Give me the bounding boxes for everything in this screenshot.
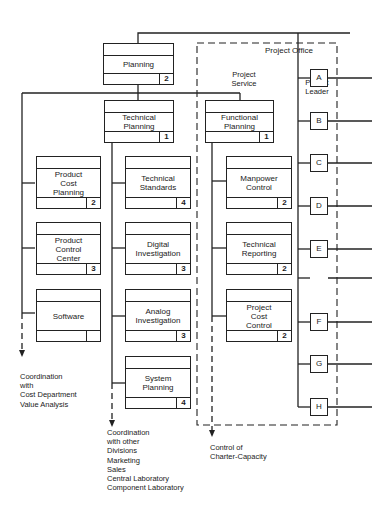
level-number: 1 (159, 132, 173, 142)
level-number: 3 (86, 264, 100, 274)
box-label: Analog Investigation (128, 301, 188, 331)
box-digital-investigation: Digital Investigation 3 (125, 222, 191, 275)
box-label: Project Cost Control (229, 301, 289, 331)
box-technical-standards: Technical Standards 4 (125, 156, 191, 209)
leader-box-d: D (310, 197, 328, 215)
box-label: System Planning (128, 368, 188, 398)
note-other-divisions: Coordination with other Divisions Market… (107, 428, 184, 492)
box-label: Technical Planning (107, 112, 171, 132)
box-label: Product Control Center (39, 234, 98, 264)
level-number: 2 (277, 198, 291, 208)
box-label: Technical Standards (128, 168, 188, 198)
box-functional-planning: Functional Planning 1 (205, 100, 274, 143)
box-project-cost-control: Project Cost Control 2 (226, 289, 292, 342)
level-number: 4 (176, 198, 190, 208)
project-service-label: Project Service (224, 70, 264, 88)
level-number: 2 (159, 74, 173, 84)
box-label: Software (39, 301, 98, 331)
box-label: Technical Reporting (229, 234, 289, 264)
leader-box-g: G (310, 355, 328, 373)
level-number: 2 (277, 331, 291, 341)
box-manpower-control: Manpower Control 2 (226, 156, 292, 209)
box-product-control-center: Product Control Center 3 (36, 222, 101, 275)
leader-box-h: H (310, 398, 328, 416)
box-product-cost-planning: Product Cost Planning 2 (36, 156, 101, 209)
level-number: 2 (86, 198, 100, 208)
level-number (86, 331, 100, 341)
box-label: Functional Planning (208, 112, 271, 132)
note-charter-capacity: Control of Charter-Capacity (210, 443, 267, 461)
leader-box-c: C (310, 154, 328, 172)
box-software: Software (36, 289, 101, 342)
level-number: 2 (277, 264, 291, 274)
level-number: 4 (176, 398, 190, 408)
note-cost-department: Coordination with Cost Department Value … (20, 372, 77, 409)
box-system-planning: System Planning 4 (125, 356, 191, 409)
leader-box-e: E (310, 240, 328, 258)
leader-box-a: A (310, 69, 328, 87)
leader-box-b: B (310, 112, 328, 130)
level-number: 1 (259, 132, 273, 142)
leader-box-f: F (310, 313, 328, 331)
box-analog-investigation: Analog Investigation 3 (125, 289, 191, 342)
box-label: Planning (106, 55, 171, 74)
box-technical-planning: Technical Planning 1 (104, 100, 174, 143)
box-label: Digital Investigation (128, 234, 188, 264)
level-number: 3 (176, 331, 190, 341)
project-office-title: Project Office (265, 46, 313, 55)
box-technical-reporting: Technical Reporting 2 (226, 222, 292, 275)
box-label: Manpower Control (229, 168, 289, 198)
level-number: 3 (176, 264, 190, 274)
box-planning: Planning 2 (103, 43, 174, 85)
box-label: Product Cost Planning (39, 168, 98, 198)
